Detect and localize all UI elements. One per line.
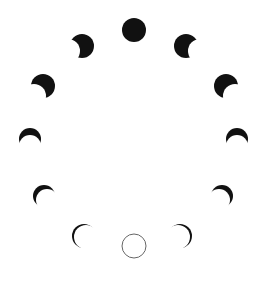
- waxing-gibbous-2-icon: [31, 74, 55, 98]
- waning-crescent-2-icon: [168, 224, 192, 248]
- waxing-crescent-2-icon: [33, 185, 55, 207]
- first-quarter-crescent-icon: [19, 128, 41, 150]
- waning-gibbous-2-icon: [214, 74, 238, 98]
- full-moon-icon: [122, 18, 146, 42]
- waxing-crescent-1-icon: [72, 224, 96, 248]
- moon-phase-ring: [19, 18, 248, 258]
- waning-crescent-1-icon: [211, 185, 233, 207]
- moon-phase-diagram: [0, 0, 264, 282]
- new-moon-icon: [122, 234, 146, 258]
- waxing-gibbous-1-icon: [70, 34, 94, 58]
- waning-gibbous-1-icon: [174, 34, 198, 58]
- last-quarter-crescent-icon: [226, 128, 248, 150]
